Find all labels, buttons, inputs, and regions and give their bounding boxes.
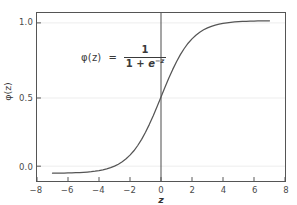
plot-area: φ(z) = 1 1 + e−z: [36, 12, 286, 182]
formula-denominator-base: e: [148, 58, 155, 69]
y-tick-label-0: 0.0: [3, 163, 33, 172]
formula-denominator-prefix: 1 +: [126, 58, 148, 69]
y-tick-marks: [37, 23, 41, 166]
plot-svg: [37, 13, 285, 181]
y-tick-label-1: 1.0: [3, 18, 33, 27]
formula-fraction: 1 1 + e−z: [124, 45, 166, 69]
y-axis-title: φ(z): [2, 72, 13, 112]
formula-denominator-exponent: −z: [155, 56, 164, 64]
sigmoid-chart-figure: 1.0 0.5 0.0 φ(z): [0, 0, 297, 205]
formula-equals-sign: =: [108, 52, 116, 63]
formula-numerator: 1: [138, 45, 153, 57]
formula-left-hand-side: φ(z): [81, 52, 101, 63]
formula-annotation: φ(z) = 1 1 + e−z: [81, 45, 166, 69]
formula-denominator: 1 + e−z: [124, 58, 166, 70]
x-axis-title: z: [36, 194, 286, 205]
x-tick-marks: [37, 177, 285, 181]
